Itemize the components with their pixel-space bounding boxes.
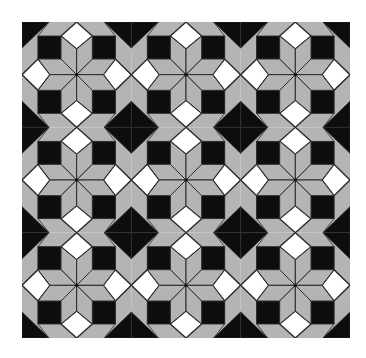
star-block xyxy=(241,233,350,338)
star-block xyxy=(131,233,240,338)
block-row-3 xyxy=(22,233,350,338)
star-block xyxy=(22,22,131,127)
star-block xyxy=(241,22,350,127)
quilt-pattern: .g { fill:#b4b4b4; } .k { fill:#0d0d0d; … xyxy=(22,22,350,338)
quilt-svg: .g { fill:#b4b4b4; } .k { fill:#0d0d0d; … xyxy=(22,22,350,338)
star-block xyxy=(241,127,350,232)
star-block xyxy=(22,233,131,338)
star-block xyxy=(131,127,240,232)
star-block xyxy=(22,127,131,232)
block-row-2 xyxy=(22,127,350,232)
block-row-1 xyxy=(22,22,350,127)
star-block xyxy=(131,22,240,127)
